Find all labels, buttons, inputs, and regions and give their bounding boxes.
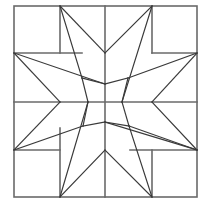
star-edge (83, 102, 88, 126)
star-edge (14, 53, 105, 84)
star-edge (152, 53, 197, 102)
star-edge (128, 53, 197, 78)
star-edge (14, 102, 60, 150)
star-edge (122, 78, 128, 102)
star-edge (129, 126, 152, 197)
diagram-svg (0, 0, 211, 209)
star-edge (82, 78, 105, 84)
star-edge (14, 126, 83, 150)
star-edge (82, 78, 88, 102)
grid-lines (14, 6, 197, 197)
star-edge (122, 102, 129, 126)
quilt-star-diagram (0, 0, 211, 209)
star-edge (105, 78, 128, 84)
star-edge (83, 122, 105, 126)
